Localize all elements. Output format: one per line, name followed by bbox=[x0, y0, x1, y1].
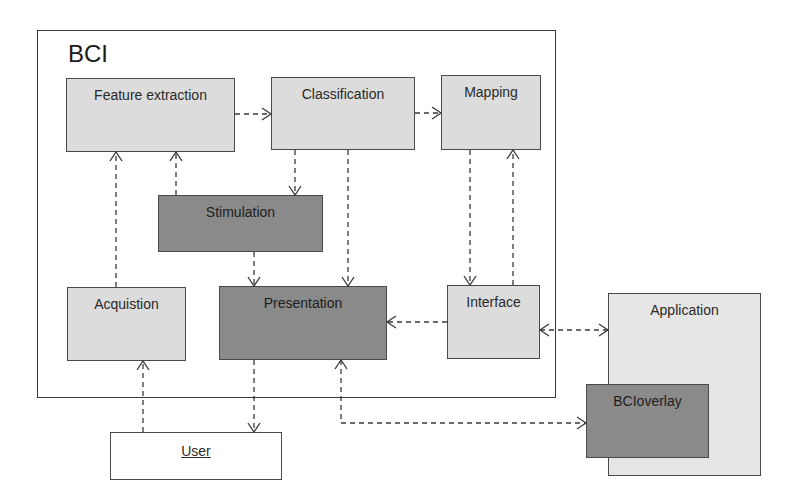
arrowhead-icon bbox=[248, 423, 260, 432]
node-stimulation: Stimulation bbox=[158, 195, 323, 252]
node-mapping: Mapping bbox=[441, 75, 541, 150]
node-label: Interface bbox=[466, 294, 520, 310]
node-label: Feature extraction bbox=[94, 87, 207, 103]
node-user: User bbox=[110, 432, 282, 480]
node-acquisition: Acquistion bbox=[67, 287, 186, 361]
node-label: Stimulation bbox=[206, 204, 275, 220]
node-presentation: Presentation bbox=[219, 286, 387, 360]
node-feature-extraction: Feature extraction bbox=[66, 78, 235, 152]
node-label: Presentation bbox=[264, 295, 343, 311]
node-bcioverlay: BCIoverlay bbox=[586, 384, 709, 458]
arrowhead-icon bbox=[577, 417, 586, 429]
node-label: Mapping bbox=[464, 84, 518, 100]
node-interface: Interface bbox=[447, 285, 540, 359]
node-classification: Classification bbox=[271, 77, 415, 150]
bci-title: BCI bbox=[68, 40, 108, 68]
node-label: BCIoverlay bbox=[613, 393, 681, 409]
node-label: Application bbox=[650, 302, 719, 318]
node-label: User bbox=[181, 443, 211, 459]
arrowhead-icon bbox=[599, 324, 608, 336]
node-label: Acquistion bbox=[94, 296, 159, 312]
node-label: Classification bbox=[302, 86, 384, 102]
